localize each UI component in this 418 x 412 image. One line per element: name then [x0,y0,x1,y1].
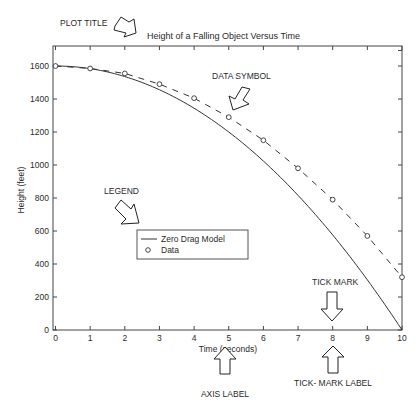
y-axis-label: Height (feet) [16,166,26,213]
legend-data-label: Data [161,245,179,255]
data-point-marker [400,275,405,280]
arrow-icon-legend [115,200,139,224]
x-tick-label: 6 [261,333,266,343]
x-tick-label: 4 [192,333,197,343]
data-point-marker [53,64,58,69]
x-tick-label: 7 [296,333,301,343]
legend-model-label: Zero Drag Model [161,234,225,244]
callout-axis-label: AXIS LABEL [201,389,249,399]
y-tick-label: 0 [44,325,49,335]
y-tick-label: 800 [35,193,49,203]
y-tick-label: 600 [35,226,49,236]
x-tick-label: 5 [226,333,231,343]
x-tick-label: 10 [397,333,407,343]
y-tick-label: 1600 [30,61,49,71]
y-ticks: 02004006008001000120014001600 [30,51,402,336]
x-tick-label: 0 [53,333,58,343]
x-tick-label: 3 [157,333,162,343]
data-point-marker [157,82,162,87]
data-point-marker [192,96,197,101]
zero-drag-model-line [56,66,403,330]
y-tick-label: 1400 [30,94,49,104]
data-point-marker [122,71,127,76]
x-tick-label: 2 [122,333,127,343]
y-tick-label: 400 [35,259,49,269]
callout-plot-title: PLOT TITLE [60,18,108,28]
x-tick-label: 8 [330,333,335,343]
arrow-icon-tick-mark [321,292,343,321]
data-point-marker [296,166,301,171]
x-tick-label: 9 [365,333,370,343]
data-point-marker [226,115,231,120]
arrow-icon-data-symbol [229,87,250,110]
data-point-marker [88,66,93,71]
data-point-marker [330,197,335,202]
callout-legend: LEGEND [104,186,139,196]
callout-tick-mark-label: TICK- MARK LABEL [294,378,372,388]
x-tick-label: 1 [88,333,93,343]
y-tick-label: 1200 [30,127,49,137]
arrow-icon-tick-mark-label [322,346,344,373]
legend: Zero Drag Model Data [137,230,248,259]
arrow-icon-plot-title [114,17,136,37]
data-point-marker [261,138,266,143]
chart-canvas: 012345678910 020040060080010001200140016… [0,0,418,412]
plot-title: Height of a Falling Object Versus Time [147,31,300,41]
callout-tick-mark: TICK MARK [312,277,359,287]
y-tick-label: 200 [35,292,49,302]
data-point-marker [365,234,370,239]
callout-data-symbol: DATA SYMBOL [212,71,271,81]
y-tick-label: 1000 [30,160,49,170]
